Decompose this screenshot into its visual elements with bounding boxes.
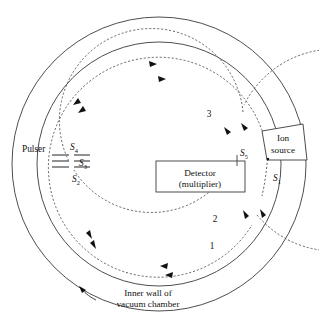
direction-arrow-lower-left-outer <box>86 230 92 239</box>
ion-source-exit-aperture <box>267 158 269 160</box>
slit-label-S4: S4 <box>70 142 79 154</box>
diagram-canvas: Pulser Detector (multiplier) Ion source … <box>0 0 319 321</box>
slit-label-S3-sub: 3 <box>84 163 87 170</box>
slit-label-S1: S1 <box>273 173 281 185</box>
slit-label-S1-sub: 1 <box>278 178 281 185</box>
slit-label-S2-sub: 2 <box>77 179 80 186</box>
direction-arrow-upper-left-outer <box>73 98 81 105</box>
wall-caption-line1: Inner wall of <box>124 288 172 298</box>
pass-number-3: 3 <box>207 109 212 119</box>
ion-source-label-line2: source <box>271 145 295 155</box>
direction-arrow-lower-left-inner <box>90 240 96 249</box>
direction-arrow-lower-right-outer <box>260 209 266 218</box>
direction-arrow-top-inner <box>149 61 157 67</box>
wall-caption-line2: vacuum chamber <box>116 299 179 309</box>
pulser-grid-beam-gap <box>69 152 74 170</box>
pass-number-1: 1 <box>210 241 215 251</box>
detector-label-line2: (multiplier) <box>179 179 221 189</box>
ion-source-label-line1: Ion <box>277 133 290 143</box>
detector-label-line1: Detector <box>184 168 216 178</box>
direction-arrow-bottom-inner <box>160 263 168 269</box>
slit-label-S3: S3 <box>79 158 87 170</box>
direction-arrow-upper-right-inner <box>224 127 231 135</box>
pulser-label: Pulser <box>22 144 46 154</box>
direction-arrow-upper-left-inner <box>78 106 86 113</box>
direction-arrow-upper-right-outer <box>241 123 248 131</box>
pass-number-2: 2 <box>213 214 218 224</box>
direction-arrow-top-outer <box>158 76 166 82</box>
slit-label-S2: S2 <box>72 174 80 186</box>
direction-arrow-lower-right-inner <box>243 210 249 219</box>
slit-label-S4-sub: 4 <box>75 147 79 154</box>
slit-label-S5-sub: 5 <box>245 153 248 160</box>
figure-container: Pulser Detector (multiplier) Ion source … <box>0 0 319 321</box>
slit-label-S5: S5 <box>240 148 248 160</box>
